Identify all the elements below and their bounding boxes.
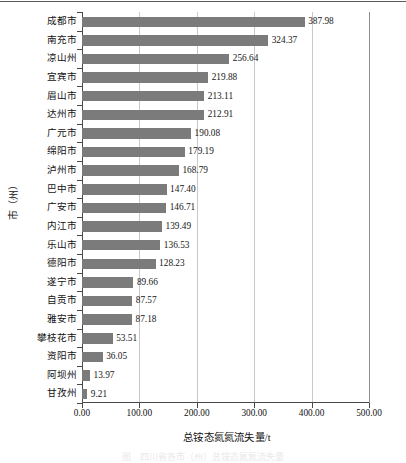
bar-成都市 [82, 17, 305, 28]
category-label-甘孜州: 甘孜州 [47, 388, 77, 398]
bar-series: 387.98324.37256.64219.88213.11212.91190.… [82, 12, 369, 403]
bar-row: 190.08 [82, 124, 369, 144]
bar-value-label: 256.64 [233, 54, 259, 63]
x-axis-tick-labels: 0.00100.00200.00300.00400.00500.00 [0, 409, 406, 423]
bar-row: 213.11 [82, 86, 369, 106]
category-label-巴中市: 巴中市 [47, 184, 77, 194]
category-label-阿坝州: 阿坝州 [47, 370, 77, 380]
category-axis-labels: 成都市南充市凉山州宜宾市眉山市达州市广元市绵阳市泸州市巴中市广安市内江市乐山市德… [0, 12, 80, 403]
bar-遂宁市 [82, 277, 133, 288]
gridline-500 [369, 12, 370, 403]
bar-row: 136.53 [82, 235, 369, 255]
bar-row: 9.21 [82, 384, 369, 404]
bar-泸州市 [82, 165, 179, 176]
category-label-广安市: 广安市 [47, 202, 77, 212]
category-label-宜宾市: 宜宾市 [47, 72, 77, 82]
bar-row: 53.51 [82, 329, 369, 349]
bar-阿坝州 [82, 370, 90, 381]
bar-value-label: 219.88 [212, 73, 238, 82]
bar-value-label: 87.57 [136, 296, 157, 305]
bar-达州市 [82, 110, 204, 121]
bar-攀枝花市 [82, 333, 113, 344]
bar-row: 147.40 [82, 180, 369, 200]
bar-row: 13.97 [82, 366, 369, 386]
bar-row: 146.71 [82, 198, 369, 218]
bar-row: 324.37 [82, 31, 369, 51]
category-label-自贡市: 自贡市 [47, 295, 77, 305]
bar-row: 87.57 [82, 291, 369, 311]
category-label-内江市: 内江市 [47, 221, 77, 231]
figure-caption: 图 四川省各市（州）总铵态氮氮流失量 [0, 450, 406, 463]
x-axis-title-text: 总铵态氮氮流失量/t [183, 432, 271, 443]
category-label-广元市: 广元市 [47, 128, 77, 138]
bar-row: 89.66 [82, 273, 369, 293]
bar-value-label: 147.40 [170, 185, 196, 194]
bar-南充市 [82, 35, 268, 46]
category-label-南充市: 南充市 [47, 35, 77, 45]
x-tick-label-300: 300.00 [241, 409, 267, 418]
x-tick-label-200: 200.00 [184, 409, 210, 418]
x-tick-label-400: 400.00 [299, 409, 325, 418]
category-label-绵阳市: 绵阳市 [47, 146, 77, 156]
bar-凉山州 [82, 54, 229, 65]
bar-value-label: 212.91 [208, 110, 234, 119]
bar-巴中市 [82, 184, 167, 195]
bar-德阳市 [82, 259, 156, 270]
x-tick-label-500: 500.00 [356, 409, 382, 418]
category-label-泸州市: 泸州市 [47, 165, 77, 175]
bar-绵阳市 [82, 147, 185, 158]
bar-value-label: 213.11 [208, 92, 233, 101]
category-label-雅安市: 雅安市 [47, 314, 77, 324]
bar-value-label: 168.79 [182, 166, 208, 175]
x-tick-label-100: 100.00 [127, 409, 153, 418]
bar-value-label: 136.53 [164, 241, 190, 250]
category-label-遂宁市: 遂宁市 [47, 277, 77, 287]
category-label-攀枝花市: 攀枝花市 [37, 333, 77, 343]
bar-雅安市 [82, 314, 132, 325]
bar-自贡市 [82, 296, 132, 307]
bar-value-label: 146.71 [170, 203, 196, 212]
bar-row: 168.79 [82, 161, 369, 181]
bar-甘孜州 [82, 389, 87, 400]
category-label-乐山市: 乐山市 [47, 240, 77, 250]
x-tick-label-0: 0.00 [74, 409, 90, 418]
bar-row: 212.91 [82, 105, 369, 125]
bar-value-label: 190.08 [195, 129, 221, 138]
bar-value-label: 9.21 [91, 390, 107, 399]
bar-row: 87.18 [82, 310, 369, 330]
bar-row: 256.64 [82, 49, 369, 69]
bar-value-label: 89.66 [137, 278, 158, 287]
bar-value-label: 387.98 [308, 17, 334, 26]
bar-广元市 [82, 128, 191, 139]
category-label-资阳市: 资阳市 [47, 351, 77, 361]
bar-宜宾市 [82, 72, 208, 83]
bar-value-label: 128.23 [159, 259, 185, 268]
x-axis-title: 总铵态氮氮流失量/t [0, 429, 406, 444]
bar-row: 36.05 [82, 347, 369, 367]
bar-value-label: 13.97 [94, 371, 115, 380]
bar-row: 219.88 [82, 68, 369, 88]
x-axis-ticks [82, 403, 369, 408]
bar-row: 387.98 [82, 12, 369, 32]
bar-内江市 [82, 221, 162, 232]
bar-眉山市 [82, 91, 204, 102]
bar-乐山市 [82, 240, 160, 251]
category-label-凉山州: 凉山州 [47, 53, 77, 63]
category-label-德阳市: 德阳市 [47, 258, 77, 268]
bar-value-label: 324.37 [272, 36, 298, 45]
bar-row: 139.49 [82, 217, 369, 237]
category-label-达州市: 达州市 [47, 109, 77, 119]
category-label-成都市: 成都市 [47, 16, 77, 26]
bar-广安市 [82, 203, 166, 214]
bar-value-label: 53.51 [116, 334, 137, 343]
bar-value-label: 87.18 [136, 315, 157, 324]
bar-value-label: 36.05 [106, 352, 127, 361]
bar-row: 179.19 [82, 142, 369, 162]
bar-value-label: 179.19 [188, 147, 214, 156]
category-label-眉山市: 眉山市 [47, 91, 77, 101]
bar-value-label: 139.49 [166, 222, 192, 231]
bar-资阳市 [82, 352, 103, 363]
bar-row: 128.23 [82, 254, 369, 274]
